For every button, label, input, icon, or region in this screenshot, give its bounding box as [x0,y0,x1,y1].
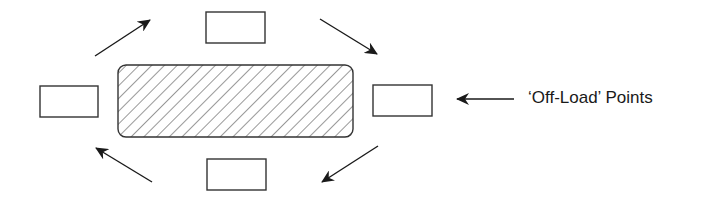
flow-arrow-bottom-left-icon [96,148,152,182]
offload-point-box-top [206,12,265,43]
offload-point-box-bottom [207,159,266,190]
offload-point-box-right [373,85,432,116]
flow-arrow-top-left-icon [95,20,150,56]
flow-arrow-top-right-icon [320,19,377,54]
offload-point-box-left [40,86,98,117]
diagram-canvas: ‘Off-Load’ Points [0,0,722,202]
flow-arrow-bottom-right-icon [322,146,378,182]
offload-points-label: ‘Off-Load’ Points [528,88,653,108]
central-work-area [118,65,353,137]
